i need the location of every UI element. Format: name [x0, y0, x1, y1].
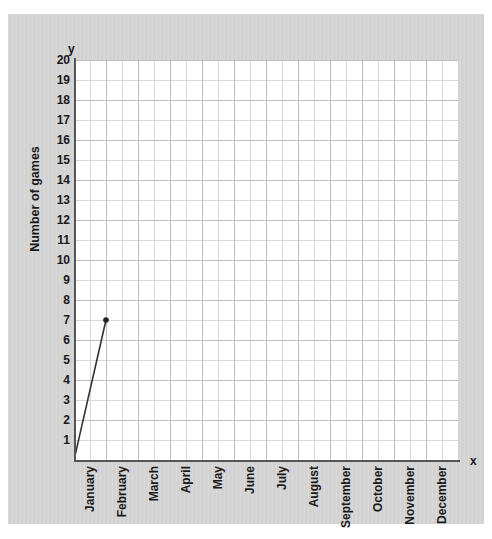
- chart-screenshot: y x 2019181716151413121110987654321 Numb…: [0, 0, 492, 539]
- y-axis-tick: 2: [44, 414, 70, 426]
- x-axis-tick: August: [298, 464, 330, 539]
- x-axis-tick: December: [426, 464, 458, 539]
- x-axis-tick: June: [234, 464, 266, 539]
- x-axis-tick: November: [394, 464, 426, 539]
- y-axis-tick: 4: [44, 374, 70, 386]
- y-axis-line: [74, 58, 76, 462]
- x-axis-tick-label: January: [83, 466, 97, 512]
- x-axis-tick-label: September: [339, 466, 353, 528]
- x-axis-tick-label: August: [307, 466, 321, 507]
- y-axis-tick: 12: [44, 214, 70, 226]
- x-axis-tick: July: [266, 464, 298, 539]
- x-axis-line: [74, 460, 460, 462]
- y-axis-tick: 11: [44, 234, 70, 246]
- x-axis-tick-label: October: [371, 466, 385, 512]
- y-axis-tick: 20: [44, 54, 70, 66]
- x-axis-tick: September: [330, 464, 362, 539]
- y-axis-tick: 17: [44, 114, 70, 126]
- y-axis-tick: 5: [44, 354, 70, 366]
- x-axis-tick-label: November: [403, 466, 417, 525]
- major-gridlines: [74, 60, 458, 460]
- y-axis-tick: 15: [44, 154, 70, 166]
- x-axis-tick: April: [170, 464, 202, 539]
- y-axis-tick: 19: [44, 74, 70, 86]
- y-axis-tick: 18: [44, 94, 70, 106]
- x-axis-tick: May: [202, 464, 234, 539]
- x-axis-tick-label: April: [179, 466, 193, 493]
- x-axis-tick: February: [106, 464, 138, 539]
- x-axis-marker: x: [470, 454, 477, 468]
- x-axis-tick-label: June: [243, 466, 257, 494]
- x-axis-tick-label: December: [435, 466, 449, 524]
- y-axis-tick: 3: [44, 394, 70, 406]
- x-axis-tick-labels: JanuaryFebruaryMarchAprilMayJuneJulyAugu…: [74, 464, 458, 539]
- y-axis-tick: 16: [44, 134, 70, 146]
- y-axis-tick: 10: [44, 254, 70, 266]
- y-axis-tick: 14: [44, 174, 70, 186]
- x-axis-tick: January: [74, 464, 106, 539]
- plot-area: [74, 60, 458, 460]
- y-axis-tick: 8: [44, 294, 70, 306]
- x-axis-tick-label: March: [147, 466, 161, 501]
- y-axis-tick: 13: [44, 194, 70, 206]
- x-axis-tick: October: [362, 464, 394, 539]
- y-axis-tick: 9: [44, 274, 70, 286]
- x-axis-tick-label: July: [275, 466, 289, 490]
- y-axis-tick-labels: 2019181716151413121110987654321: [40, 60, 70, 460]
- y-axis-tick: 1: [44, 434, 70, 446]
- x-axis-tick: March: [138, 464, 170, 539]
- chart-canvas: y x 2019181716151413121110987654321 Numb…: [8, 14, 484, 524]
- x-axis-tick-label: February: [115, 466, 129, 517]
- y-axis-tick: 7: [44, 314, 70, 326]
- y-axis-tick: 6: [44, 334, 70, 346]
- y-axis-title: Number of games: [28, 134, 42, 264]
- x-axis-tick-label: May: [211, 466, 225, 489]
